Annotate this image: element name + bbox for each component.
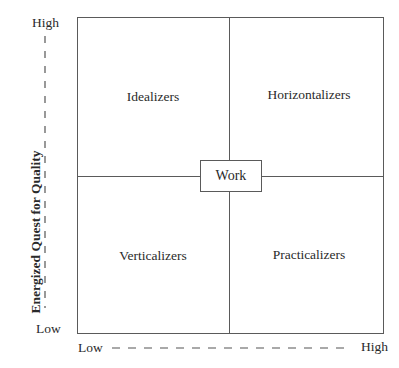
y-axis-low-label: Low <box>36 321 61 337</box>
y-axis-title: Energized Quest for Quality <box>28 151 44 314</box>
quadrant-horizontalizers: Horizontalizers <box>267 87 350 103</box>
x-axis-low-label: Low <box>78 340 103 356</box>
x-axis-high-label: High <box>361 339 388 355</box>
x-axis-dashed-line <box>112 345 352 351</box>
center-work-box: Work <box>200 160 262 192</box>
center-work-label: Work <box>216 168 247 184</box>
quadrant-idealizers: Idealizers <box>127 89 179 105</box>
y-axis-high-label: High <box>32 15 59 31</box>
quadrant-practicalizers: Practicalizers <box>273 247 346 263</box>
quadrant-verticalizers: Verticalizers <box>119 248 186 264</box>
